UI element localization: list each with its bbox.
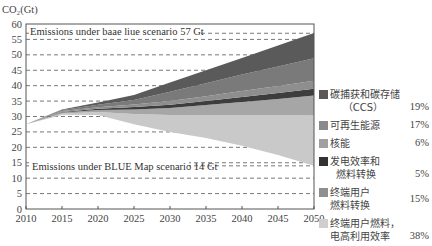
legend-swatch: [319, 188, 328, 197]
x-tick-label: 2035: [196, 213, 217, 224]
area-layer: [26, 112, 314, 166]
y-axis-title: CO₂(Gt): [2, 4, 38, 16]
y-tick-label: 40: [12, 80, 23, 91]
x-tick-label: 2025: [124, 213, 145, 224]
x-tick-label: 2020: [88, 213, 109, 224]
legend-item: 核能6%: [319, 137, 432, 150]
baseline-annotation: Emissions under baae liue scenario 57 Gt: [30, 26, 204, 37]
legend-swatch: [319, 139, 328, 148]
y-tick-label: 55: [12, 34, 23, 45]
legend-item: 终端用户 燃料转换15%: [319, 186, 432, 212]
legend-percentage: 19%: [410, 101, 429, 112]
x-tick-label: 2040: [232, 213, 253, 224]
area-layers: [26, 33, 314, 166]
x-tick-label: 2030: [160, 213, 181, 224]
legend-percentage: 6%: [415, 137, 429, 148]
legend-swatch: [319, 219, 328, 228]
y-tick-label: 45: [12, 65, 23, 76]
legend-item: 碳捕获和碳存储 （CCS）19%: [319, 88, 432, 114]
y-tick-label: 10: [12, 173, 23, 184]
legend-percentage: 15%: [410, 193, 429, 204]
y-tick-label: 20: [12, 142, 23, 153]
y-tick-label: 50: [12, 49, 23, 60]
y-tick-label: 35: [12, 96, 23, 107]
x-axis-ticks: 201020152020202520302035204020452050: [16, 206, 325, 224]
legend-item: 发电效率和 燃料转换5%: [319, 155, 432, 181]
y-tick-label: 30: [12, 111, 23, 122]
legend-item: 终端用户燃料， 电高利用效率38%: [319, 217, 432, 243]
x-tick-label: 2010: [16, 213, 37, 224]
legend-swatch: [319, 157, 328, 166]
x-tick-label: 2045: [268, 213, 289, 224]
legend-percentage: 17%: [410, 119, 429, 130]
y-tick-label: 60: [12, 19, 23, 30]
legend-percentage: 38%: [410, 230, 429, 241]
y-tick-label: 5: [17, 188, 22, 199]
legend-percentage: 5%: [415, 168, 429, 179]
legend-swatch: [319, 90, 328, 99]
legend-swatch: [319, 121, 328, 130]
y-tick-label: 25: [12, 126, 23, 137]
blue-map-annotation: Emissions under BLUE Map scenario 14 Gt: [32, 161, 218, 172]
y-tick-label: 15: [12, 157, 23, 168]
legend-item: 可再生能源17%: [319, 119, 432, 132]
x-tick-label: 2015: [52, 213, 73, 224]
y-axis-ticks: 051015202530354045505560: [12, 19, 23, 215]
legend: 碳捕获和碳存储 （CCS）19%可再生能源17%核能6%发电效率和 燃料转换5%…: [319, 88, 432, 246]
